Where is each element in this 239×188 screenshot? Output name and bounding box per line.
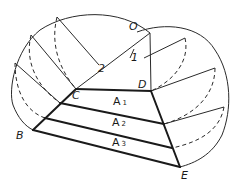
- line-O-D: [150, 33, 151, 91]
- right-dashed-arc-2: [164, 68, 215, 124]
- right-outer-arc: [137, 27, 229, 167]
- area-label-A2: A2: [112, 117, 126, 128]
- area-label-A1: A1: [113, 96, 127, 107]
- line-label-1: 1: [131, 52, 138, 63]
- point-label-E: E: [181, 170, 188, 181]
- right-radial-line-2: [151, 68, 215, 91]
- point-label-O: O: [129, 21, 138, 32]
- left-dashed-arc-1: [55, 17, 76, 89]
- area-label-A3: A3: [112, 137, 126, 148]
- left-dashed-arc-3: [15, 63, 45, 118]
- left-radial-line-3: [15, 63, 60, 103]
- point-label-D: D: [138, 79, 146, 90]
- point-label-C: C: [72, 90, 80, 101]
- right-dashed-arc-3: [172, 107, 224, 148]
- edge-B-E: [33, 130, 180, 167]
- edge-D-E: [151, 91, 180, 167]
- geometry-figure: [0, 0, 239, 188]
- left-radial-line-1: [57, 17, 99, 65]
- diagram-canvas: O C D B E 2 1 A1 A2 A3: [0, 0, 239, 188]
- line-label-2: 2: [98, 63, 105, 74]
- point-label-B: B: [16, 130, 24, 141]
